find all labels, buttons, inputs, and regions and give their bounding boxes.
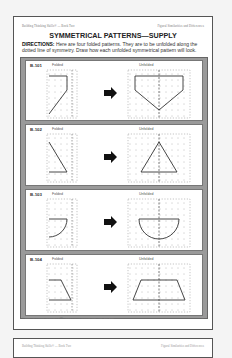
folded-grid-b103 [46,197,78,249]
unfolded-caption: Unfolded [139,257,153,261]
right-arrow-icon [104,216,118,228]
exercise-panel-b104: B-104 Folded Unfolded [25,254,203,316]
exercise-id: B-101 [30,63,42,68]
unfolded-grid-b103[interactable] [127,197,191,249]
exercise-id: B-102 [30,127,42,132]
copyright-footer: © 2008 The Critical Thinking Co.™ • www.… [22,317,114,320]
exercise-panel-b101: B-101 Folded Unfolded [25,60,203,121]
right-arrow-icon [104,281,118,293]
folded-grid-b104 [46,262,78,314]
unfolded-grid-b104[interactable] [127,262,191,314]
exercise-area: B-101 Folded Unfolded B-102 Folded Unfol… [20,57,208,319]
running-header-right: Figural Similarities and Differences [157,24,204,28]
folded-caption: Folded [52,63,63,67]
next-page-header-left: Building Thinking Skills® — Book Two [22,344,71,348]
unfolded-caption: Unfolded [139,127,153,131]
folded-grid-b102 [46,132,78,184]
worksheet-page: Building Thinking Skills® — Book Two Fig… [13,16,213,330]
unfolded-grid-b101[interactable] [127,68,191,120]
exercise-id: B-103 [30,192,42,197]
unfolded-caption: Unfolded [139,192,153,196]
unfolded-grid-b102[interactable] [127,132,191,184]
page-number: 49 [201,317,204,320]
exercise-panel-b103: B-103 Folded Unfolded [25,189,203,251]
unfolded-caption: Unfolded [139,63,153,67]
running-header-left: Building Thinking Skills® — Book Two [22,24,75,28]
next-page-header-right: Figural Similarities and Differences [161,344,204,348]
page-title: SYMMETRICAL PATTERNS—SUPPLY [14,31,212,40]
next-page-preview: Building Thinking Skills® — Book Two Fig… [13,338,213,358]
exercise-id: B-104 [30,257,42,262]
folded-caption: Folded [52,127,63,131]
right-arrow-icon [104,151,118,163]
folded-caption: Folded [52,257,63,261]
folded-grid-b101 [46,68,78,120]
directions-label: DIRECTIONS: [22,41,55,47]
right-arrow-icon [104,87,118,99]
exercise-panel-b102: B-102 Folded Unfolded [25,124,203,186]
folded-caption: Folded [52,192,63,196]
directions: DIRECTIONS: Here are four folded pattern… [22,41,206,53]
